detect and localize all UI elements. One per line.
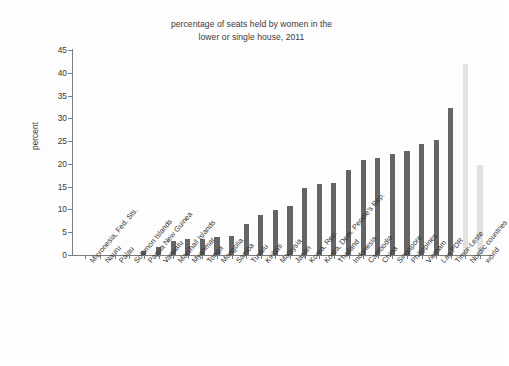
- y-tick-label: 15: [45, 182, 67, 192]
- y-tick: [68, 232, 73, 233]
- y-tick-label: 45: [45, 45, 67, 55]
- bar: [463, 64, 468, 255]
- y-tick: [68, 141, 73, 142]
- y-tick-label: 10: [45, 204, 67, 214]
- y-tick-label: 40: [45, 68, 67, 78]
- x-tick: [85, 255, 86, 259]
- y-tick: [68, 209, 73, 210]
- bar: [404, 151, 409, 255]
- bar: [448, 108, 453, 255]
- y-tick: [68, 187, 73, 188]
- y-tick: [68, 118, 73, 119]
- y-tick: [68, 164, 73, 165]
- y-tick: [68, 73, 73, 74]
- y-tick: [68, 50, 73, 51]
- chart-title: percentage of seats held by women in the…: [0, 18, 503, 43]
- plot-area: 051015202530354045: [73, 50, 491, 255]
- y-tick-label: 20: [45, 159, 67, 169]
- chart-title-line-1: percentage of seats held by women in the: [0, 18, 503, 31]
- y-tick-label: 35: [45, 91, 67, 101]
- y-tick: [68, 96, 73, 97]
- y-axis-label: percent: [30, 122, 40, 150]
- y-tick-label: 25: [45, 136, 67, 146]
- y-tick-label: 30: [45, 113, 67, 123]
- chart-title-line-2: lower or single house, 2011: [0, 31, 503, 44]
- y-tick-label: 0: [45, 250, 67, 260]
- y-tick: [68, 255, 73, 256]
- y-tick-label: 5: [45, 227, 67, 237]
